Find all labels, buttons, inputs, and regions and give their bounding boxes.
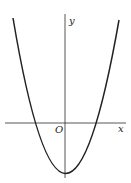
parabola-curve bbox=[13, 18, 119, 174]
y-axis-label: y bbox=[68, 15, 75, 26]
x-axis-label: x bbox=[118, 123, 124, 134]
origin-label: O bbox=[55, 124, 63, 135]
parabola-chart: y x O bbox=[0, 0, 131, 183]
